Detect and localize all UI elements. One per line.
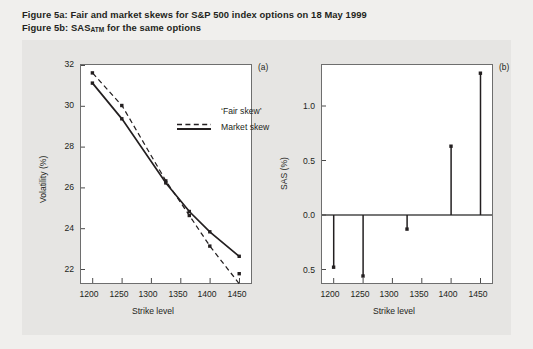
figure-root: Figure 5a: Fair and market skews for S&P… [0, 0, 533, 349]
legend-label-fair-skew: ‘Fair skew’ [221, 106, 262, 116]
xtick-b-1450: 1450 [460, 290, 496, 299]
ytick-marks-a [81, 66, 85, 270]
ytick-a-28: 28 [46, 142, 74, 151]
xtick-marks-a [93, 278, 240, 283]
ytick-b-0.0: 0.0 [287, 211, 315, 220]
caption-5b-subscript: ATM [91, 26, 105, 33]
figure-5b-svg [322, 65, 492, 283]
stem-markers-b [332, 72, 482, 278]
figure-caption: Figure 5a: Fair and market skews for S&P… [22, 9, 512, 36]
xaxis-title-b: Strike level [373, 306, 415, 316]
ytick-a-22: 22 [46, 265, 74, 274]
ytick-b-0.5: 0.5 [287, 157, 315, 166]
plot-area-figure-5a: ‘Fair skew’ Market skew [80, 64, 252, 284]
panel-letter-b: (b) [499, 62, 509, 72]
ytick-a-26: 26 [46, 183, 74, 192]
yaxis-title-b: SAS (%) [279, 157, 289, 190]
caption-line-5a: Figure 5a: Fair and market skews for S&P… [22, 9, 512, 22]
legend-key-market-skew-solid [177, 128, 211, 130]
xtick-a-1450: 1450 [219, 290, 255, 299]
yaxis-title-a: Volatility (%) [38, 156, 48, 203]
ytick-b-neg0.5: 0.5 [287, 266, 315, 275]
caption-5b-suffix: for the same options [104, 22, 201, 33]
ytick-b-1.0: 1.0 [287, 102, 315, 111]
figure-panel: (a) 32 30 28 26 24 22 1200 1250 1300 135… [22, 40, 511, 335]
panel-letter-a: (a) [258, 62, 268, 72]
series-fair-skew-markers [91, 71, 241, 275]
figure-5a-svg [81, 65, 251, 283]
caption-line-5b: Figure 5b: SASATM for the same options [22, 22, 512, 37]
ytick-a-24: 24 [46, 224, 74, 233]
legend-key-fair-skew-dashed [177, 112, 211, 114]
ytick-a-30: 30 [46, 101, 74, 110]
ytick-a-32: 32 [46, 60, 74, 69]
caption-5b-prefix: Figure 5b: SAS [22, 22, 91, 33]
stems-b [334, 73, 481, 276]
xaxis-title-a: Strike level [132, 306, 174, 316]
plot-area-figure-5b [321, 64, 493, 284]
ytick-marks-b [322, 106, 326, 270]
xtick-marks-b [334, 278, 481, 283]
series-fair-skew-line [93, 73, 240, 284]
legend-label-market-skew: Market skew [221, 122, 269, 132]
series-market-skew-line [93, 83, 240, 256]
